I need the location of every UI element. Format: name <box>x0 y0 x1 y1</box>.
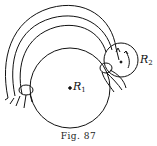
figure-caption: Fig. 87 <box>0 131 157 141</box>
label-r1-sub: 1 <box>81 86 85 94</box>
center-r1-dot <box>69 87 72 90</box>
arc-outer <box>5 5 116 98</box>
label-r2: R2 <box>140 53 153 67</box>
center-r2-dot <box>120 61 122 63</box>
arrow-path-2 <box>124 51 129 68</box>
label-r1: R1 <box>73 80 86 94</box>
left-strands <box>5 94 32 108</box>
label-r2-sub: 2 <box>148 59 152 67</box>
arc-inner <box>20 25 106 94</box>
arc-middle <box>13 16 112 96</box>
arrow-path-1 <box>116 48 120 60</box>
diagram <box>0 0 157 146</box>
